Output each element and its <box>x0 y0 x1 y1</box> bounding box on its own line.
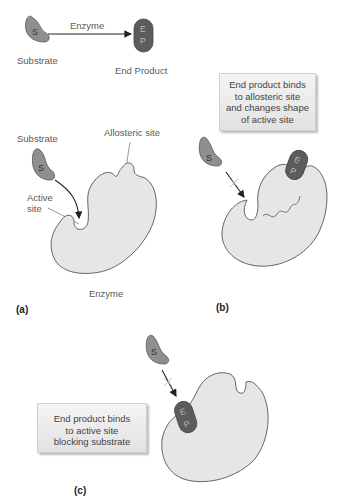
blocked-x-icon-c <box>164 378 172 386</box>
active-site-label-line1: Active <box>27 192 53 203</box>
allosteric-site-label: Allosteric site <box>104 127 160 138</box>
callout-line: and changes shape <box>220 102 315 114</box>
substrate-glyph: S <box>32 27 38 37</box>
panel-c-tag: (c) <box>74 485 86 496</box>
callout-line: blocking substrate <box>38 436 146 448</box>
callout-line: to active site <box>38 425 146 437</box>
panel-c-callout: End product binds to active site blockin… <box>37 403 147 453</box>
reaction-arrow-label: Enzyme <box>70 20 104 31</box>
callout-line: End product binds <box>38 413 146 425</box>
end-product-label: End Product <box>115 65 168 76</box>
top-substrate: S Substrate <box>17 16 58 66</box>
top-end-product: E P End Product <box>115 19 168 76</box>
panel-c-substrate-glyph: S <box>151 347 157 357</box>
panel-c-enzyme-shape <box>162 373 268 482</box>
panel-a-tag: (a) <box>16 304 28 315</box>
panel-a: Substrate S Allosteric site Active site … <box>16 127 160 315</box>
panel-b-substrate-glyph: S <box>206 153 212 163</box>
panel-a-enzyme-shape <box>51 163 156 274</box>
blocked-x-icon <box>230 179 238 187</box>
panel-c-substrate-shape <box>146 335 168 364</box>
panel-a-binding-arrow <box>55 180 79 218</box>
end-product-glyph-p: P <box>140 36 146 46</box>
panel-b: S E P (b) <box>199 137 327 313</box>
end-product-glyph-e: E <box>140 24 146 34</box>
panel-b-callout: End product binds to allosteric site and… <box>219 73 316 131</box>
panel-b-tag: (b) <box>216 302 229 313</box>
callout-line: End product binds <box>220 79 315 91</box>
active-site-label-line2: site <box>27 203 42 214</box>
callout-line: of active site <box>220 114 315 126</box>
enzyme-label: Enzyme <box>89 288 123 299</box>
substrate-label: Substrate <box>17 55 58 66</box>
callout-line: to allosteric site <box>220 91 315 103</box>
panel-a-substrate-glyph: S <box>38 163 44 173</box>
panel-a-substrate-label: Substrate <box>17 133 58 144</box>
